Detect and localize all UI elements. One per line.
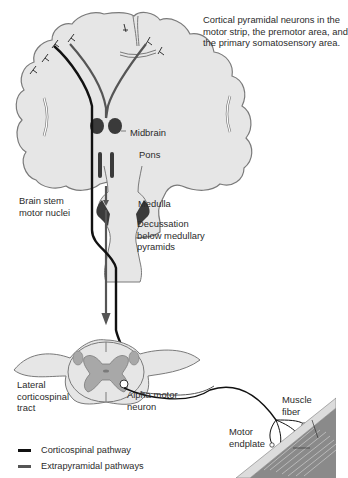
label-line: Muscle	[282, 394, 312, 406]
label-line: motor nuclei	[19, 207, 70, 219]
label-line: neuron	[127, 401, 178, 413]
label-line: fiber	[282, 406, 312, 418]
legend-corticospinal: Corticospinal pathway	[18, 445, 131, 455]
label-line: motor strip, the premotor area, and	[203, 26, 348, 38]
label-midbrain: Midbrain	[130, 127, 166, 139]
extrapyramidal-swatch-icon	[18, 465, 31, 468]
label-lateral-corticospinal-tract: Lateral corticospinal tract	[17, 379, 69, 414]
label-line: Brain stem	[19, 195, 70, 207]
label-line: pyramids	[137, 241, 205, 253]
corticospinal-swatch-icon	[18, 449, 31, 452]
legend-label: Corticospinal pathway	[41, 445, 131, 455]
label-line: tract	[17, 402, 69, 414]
label-line: below medullary	[137, 230, 205, 242]
label-line: Lateral	[17, 379, 69, 391]
label-cortical-neurons: Cortical pyramidal neurons in the motor …	[203, 14, 348, 49]
label-line: corticospinal	[17, 391, 69, 403]
midbrain-nucleus-right	[108, 118, 122, 134]
label-line: endplate	[229, 438, 265, 450]
label-motor-endplate: Motor endplate	[229, 426, 265, 449]
legend-extrapyramidal: Extrapyramidal pathways	[18, 461, 144, 471]
legend-label: Extrapyramidal pathways	[41, 461, 144, 471]
label-line: Motor	[229, 426, 265, 438]
label-alpha-motor-neuron: Alpha motor neuron	[127, 389, 178, 412]
label-decussation: Decussation below medullary pyramids	[137, 218, 205, 253]
label-line: Cortical pyramidal neurons in the	[203, 14, 348, 26]
label-muscle-fiber: Muscle fiber	[282, 394, 312, 417]
label-brainstem-nuclei: Brain stem motor nuclei	[19, 195, 70, 218]
label-pons: Pons	[139, 149, 160, 161]
brain-section	[16, 13, 252, 282]
label-line: Alpha motor	[127, 389, 178, 401]
label-line: Decussation	[137, 218, 205, 230]
label-medulla: Medulla	[138, 198, 171, 210]
label-line: the primary somatosensory area.	[203, 37, 348, 49]
